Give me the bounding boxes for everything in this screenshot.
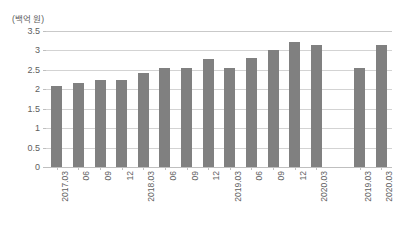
bar[interactable] [116, 80, 127, 167]
gridline-2.5 [46, 70, 392, 71]
y-axis-tick-label: 2.5 [27, 65, 40, 74]
y-tick-mark [43, 89, 46, 90]
bar[interactable] [246, 58, 257, 167]
x-axis-tick-label: 06 [169, 171, 178, 180]
x-axis-tick-label: 09 [104, 171, 113, 180]
bar[interactable] [181, 68, 192, 167]
x-axis-tick-label: 2019.03 [234, 171, 243, 202]
bar[interactable] [354, 68, 365, 167]
x-axis-tick-label: 2018.03 [147, 171, 156, 202]
bar[interactable] [224, 68, 235, 167]
gridline-0 [46, 167, 392, 168]
x-tick-mark [273, 167, 274, 170]
y-tick-mark [43, 167, 46, 168]
bar[interactable] [73, 83, 84, 167]
bar[interactable] [203, 59, 214, 167]
x-tick-mark [78, 167, 79, 170]
x-tick-mark [187, 167, 188, 170]
bar[interactable] [268, 50, 279, 167]
x-tick-mark [295, 167, 296, 170]
y-tick-mark [43, 109, 46, 110]
plot-area: 00.511.522.533.5 [46, 31, 392, 167]
x-axis-tick-label: 2019.03 [364, 171, 373, 202]
x-tick-mark [251, 167, 252, 170]
x-axis-tick-label: 12 [126, 171, 135, 180]
x-axis-tick-label: 09 [277, 171, 286, 180]
x-tick-mark [100, 167, 101, 170]
x-axis-tick-label: 12 [212, 171, 221, 180]
gridline-3 [46, 50, 392, 51]
y-tick-mark [43, 50, 46, 51]
y-axis-tick-label: 3 [35, 46, 40, 55]
y-tick-mark [43, 128, 46, 129]
y-axis-tick-label: 1 [35, 124, 40, 133]
x-tick-mark [165, 167, 166, 170]
x-axis-tick-label: 2017.03 [61, 171, 70, 202]
bar[interactable] [51, 86, 62, 167]
x-axis-tick-label: 2020.03 [320, 171, 329, 202]
x-axis-tick-label: 12 [299, 171, 308, 180]
y-axis-tick-label: 2 [35, 85, 40, 94]
x-tick-mark [230, 167, 231, 170]
y-axis-unit-label: (백억 원) [12, 12, 44, 24]
x-tick-mark [143, 167, 144, 170]
bar[interactable] [289, 42, 300, 167]
bar[interactable] [311, 45, 322, 167]
y-axis-tick-label: 1.5 [27, 104, 40, 113]
x-axis-tick-label: 06 [255, 171, 264, 180]
bar[interactable] [376, 45, 387, 167]
y-tick-mark [43, 31, 46, 32]
y-axis-tick-label: 0 [35, 163, 40, 172]
x-axis-tick-label: 2020.03 [385, 171, 394, 202]
x-tick-mark [208, 167, 209, 170]
bar[interactable] [138, 73, 149, 167]
x-tick-mark [360, 167, 361, 170]
x-tick-mark [316, 167, 317, 170]
y-tick-mark [43, 70, 46, 71]
y-axis-tick-label: 3.5 [27, 27, 40, 36]
bar-chart: (백억 원) 00.511.522.533.5 2017.03060912201… [0, 0, 398, 228]
bar[interactable] [159, 68, 170, 167]
bar[interactable] [95, 80, 106, 167]
x-axis-labels: 2017.030609122018.030609122019.030609122… [46, 169, 392, 228]
x-axis-tick-label: 06 [82, 171, 91, 180]
y-tick-mark [43, 148, 46, 149]
x-axis-tick-label: 09 [191, 171, 200, 180]
x-tick-mark [57, 167, 58, 170]
y-axis-tick-label: 0.5 [27, 143, 40, 152]
x-tick-mark [381, 167, 382, 170]
gridline-3.5 [46, 31, 392, 32]
x-tick-mark [122, 167, 123, 170]
